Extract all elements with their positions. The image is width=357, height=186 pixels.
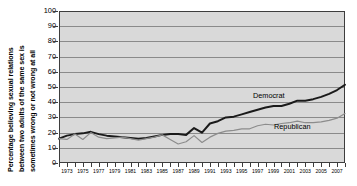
y-axis-tick-mark xyxy=(53,26,58,27)
y-axis-tick-mark xyxy=(53,87,58,88)
x-axis-tick-mark xyxy=(234,163,235,167)
x-axis-tick-label: 2005 xyxy=(315,169,326,174)
x-axis-tick-mark xyxy=(131,163,132,167)
y-axis-tick-mark xyxy=(53,133,58,134)
y-axis-tick-mark xyxy=(53,148,58,149)
x-axis-tick-label: 1995 xyxy=(236,169,247,174)
x-axis-tick-mark xyxy=(345,163,346,167)
x-axis-tick-mark xyxy=(289,163,290,167)
x-axis-tick-label: 1999 xyxy=(268,169,279,174)
y-axis-tick-mark xyxy=(53,163,58,164)
x-axis-tick-label: 2001 xyxy=(284,169,295,174)
x-axis-tick-label: 1991 xyxy=(204,169,215,174)
x-axis-tick-mark xyxy=(321,163,322,167)
x-axis-tick-label: 1981 xyxy=(125,169,136,174)
x-axis-tick-mark xyxy=(138,163,139,167)
y-axis-tick-labels: 0102030405060708090100 xyxy=(40,0,56,186)
x-axis-tick-label: 2007 xyxy=(331,169,342,174)
x-axis-tick-mark xyxy=(154,163,155,167)
x-axis-tick-mark xyxy=(59,163,60,167)
line-chart: Percentage believing sexual relations be… xyxy=(0,0,357,186)
x-axis-tick-label: 1977 xyxy=(93,169,104,174)
x-axis-tick-label: 1987 xyxy=(172,169,183,174)
y-axis-tick-mark xyxy=(53,72,58,73)
x-axis-tick-mark xyxy=(186,163,187,167)
x-axis-tick-mark xyxy=(218,163,219,167)
x-axis-tick-mark xyxy=(115,163,116,167)
x-axis-tick-mark xyxy=(91,163,92,167)
x-axis-tick-mark xyxy=(297,163,298,167)
y-axis-tick-mark xyxy=(53,102,58,103)
x-axis-tick-label: 1985 xyxy=(157,169,168,174)
x-axis-tick-mark xyxy=(281,163,282,167)
series-label-democrat: Democrat xyxy=(253,92,285,99)
gridline xyxy=(60,41,344,42)
x-axis-tick-mark xyxy=(313,163,314,167)
y-axis-title-line-3: sometimes wrong or not wrong at all xyxy=(30,50,37,172)
x-axis-tick-mark xyxy=(99,163,100,167)
x-axis-tick-mark xyxy=(274,163,275,167)
x-axis-tick-mark xyxy=(202,163,203,167)
x-axis-tick-label: 1979 xyxy=(109,169,120,174)
x-axis-tick-label: 1975 xyxy=(77,169,88,174)
x-axis-tick-mark xyxy=(305,163,306,167)
x-axis-tick-mark xyxy=(75,163,76,167)
x-axis-tick-label: 1997 xyxy=(252,169,263,174)
x-axis-tick-label: 1993 xyxy=(220,169,231,174)
x-axis-tick-mark xyxy=(123,163,124,167)
gridline xyxy=(60,102,344,103)
x-axis-tick-mark xyxy=(67,163,68,167)
x-axis-tick-mark xyxy=(226,163,227,167)
x-axis-tick-label: 1989 xyxy=(188,169,199,174)
gridline xyxy=(60,148,344,149)
x-axis-tick-mark xyxy=(210,163,211,167)
gridline xyxy=(60,87,344,88)
y-axis-tick-mark xyxy=(53,57,58,58)
x-axis-tick-mark xyxy=(194,163,195,167)
x-axis-tick-mark xyxy=(250,163,251,167)
x-axis-tick-mark xyxy=(162,163,163,167)
x-axis-tick-label: 1983 xyxy=(141,169,152,174)
gridline xyxy=(60,26,344,27)
y-axis-title-line-2: between two adults of the same sex is xyxy=(19,45,26,172)
x-axis-tick-mark xyxy=(170,163,171,167)
x-axis-tick-mark xyxy=(107,163,108,167)
y-axis-tick-mark xyxy=(53,11,58,12)
x-axis-tick-mark xyxy=(266,163,267,167)
x-axis-tick-mark xyxy=(178,163,179,167)
plot-area xyxy=(59,11,345,163)
y-axis-tick-mark xyxy=(53,117,58,118)
y-axis-tick-mark xyxy=(53,41,58,42)
x-axis-tick-mark xyxy=(337,163,338,167)
y-axis-title-line-1: Percentage believing sexual relations xyxy=(8,47,15,172)
x-axis-tick-mark xyxy=(83,163,84,167)
x-axis-tick-mark xyxy=(258,163,259,167)
gridline xyxy=(60,117,344,118)
series-label-republican: Republican xyxy=(274,123,311,130)
gridline xyxy=(60,133,344,134)
x-axis-tick-mark xyxy=(329,163,330,167)
y-axis-title: Percentage believing sexual relations be… xyxy=(0,0,40,186)
x-axis-tick-mark xyxy=(146,163,147,167)
x-axis-tick-label: 1973 xyxy=(61,169,72,174)
gridline xyxy=(60,57,344,58)
x-axis-tick-label: 2003 xyxy=(300,169,311,174)
x-axis-tick-mark xyxy=(242,163,243,167)
gridline xyxy=(60,72,344,73)
